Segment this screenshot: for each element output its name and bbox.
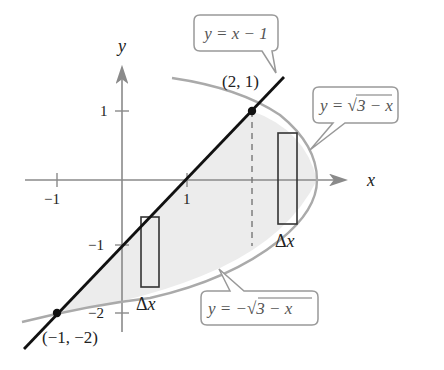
delta-x-label-right: Δx bbox=[275, 231, 295, 251]
y-tick-label-neg2: −2 bbox=[88, 305, 104, 321]
callout-upper: y = √3 − x bbox=[310, 87, 398, 150]
callout-line: y = x − 1 bbox=[194, 15, 278, 73]
y-axis-label: y bbox=[116, 36, 126, 56]
callout-line-text: y = x − 1 bbox=[202, 24, 268, 43]
x-axis-label: x bbox=[366, 170, 375, 190]
y-tick-label-1: 1 bbox=[100, 103, 108, 119]
point-label-neg1-neg2: (−1, −2) bbox=[42, 328, 98, 347]
y-tick-label-neg1: −1 bbox=[88, 237, 104, 253]
callout-lower-text: y = −√3 − x bbox=[206, 299, 293, 318]
callout-upper-text: y = √3 − x bbox=[318, 96, 393, 115]
point-label-2-1: (2, 1) bbox=[222, 72, 259, 91]
point-neg1-neg2 bbox=[53, 309, 61, 317]
x-tick-label-neg1: −1 bbox=[44, 191, 60, 207]
region-diagram: y x −1 1 1 −1 −2 (2, 1) (−1, −2) Δx Δx y… bbox=[0, 0, 444, 370]
x-tick-label-1: 1 bbox=[183, 191, 191, 207]
point-2-1 bbox=[248, 107, 256, 115]
delta-x-label-left: Δx bbox=[136, 294, 156, 314]
